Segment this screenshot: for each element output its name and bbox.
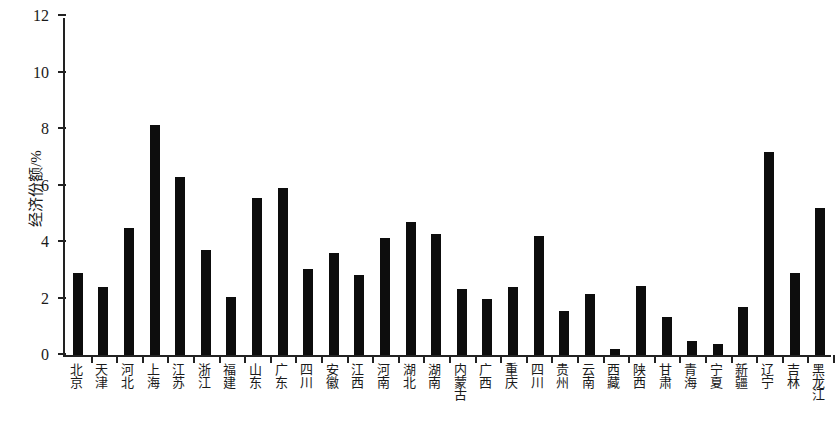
- bar: [815, 208, 825, 355]
- x-axis-tick: [679, 355, 681, 363]
- bar: [329, 253, 339, 355]
- bar: [354, 275, 364, 356]
- y-axis-tick: 6: [58, 184, 66, 186]
- x-axis-label: 辽宁: [761, 363, 774, 388]
- x-axis-tick: [603, 355, 605, 363]
- x-axis-label: 青海: [684, 363, 697, 388]
- bar: [252, 198, 262, 355]
- bar: [534, 236, 544, 355]
- x-axis-label: 云南: [581, 363, 594, 388]
- bar: [764, 152, 774, 355]
- x-axis-label: 四川: [300, 363, 313, 388]
- x-axis-label: 甘肃: [658, 363, 671, 388]
- bar: [124, 228, 134, 355]
- y-axis-tick-label: 2: [41, 289, 49, 309]
- y-axis-tick-label: 4: [41, 232, 49, 252]
- x-axis-tick: [654, 355, 656, 363]
- x-axis-tick: [526, 355, 528, 363]
- bar: [482, 299, 492, 356]
- x-axis-tick: [347, 355, 349, 363]
- x-axis-tick: [449, 355, 451, 363]
- y-axis-tick-label: 12: [33, 6, 49, 26]
- bar: [610, 349, 620, 355]
- x-axis-tick: [807, 355, 809, 363]
- x-axis-label: 广西: [479, 363, 492, 388]
- y-axis-tick-label: 6: [41, 176, 49, 196]
- x-axis-label: 上海: [146, 363, 159, 388]
- x-axis-tick: [321, 355, 323, 363]
- x-axis-label: 福建: [223, 363, 236, 388]
- y-axis-tick-label: 8: [41, 119, 49, 139]
- x-axis-label: 江西: [351, 363, 364, 388]
- bar: [406, 222, 416, 355]
- bar: [662, 317, 672, 355]
- bar: [175, 177, 185, 355]
- x-axis-tick: [500, 355, 502, 363]
- x-axis-tick: [270, 355, 272, 363]
- bar: [226, 297, 236, 355]
- bar: [73, 273, 83, 355]
- x-axis-tick: [372, 355, 374, 363]
- x-axis-label: 西藏: [607, 363, 620, 388]
- x-axis-label: 河北: [121, 363, 134, 388]
- x-axis-label: 黑龙江: [812, 363, 825, 401]
- y-axis-tick: 0: [58, 353, 66, 355]
- x-axis-tick: [193, 355, 195, 363]
- x-axis-label: 贵州: [556, 363, 569, 388]
- bar: [303, 269, 313, 355]
- x-axis-tick: [116, 355, 118, 363]
- x-axis-label: 山东: [249, 363, 262, 388]
- bar: [150, 125, 160, 355]
- x-axis-label: 江苏: [172, 363, 185, 388]
- y-axis-tick-label: 0: [41, 345, 49, 365]
- bar: [713, 344, 723, 355]
- bar: [431, 234, 441, 355]
- x-axis-tick: [705, 355, 707, 363]
- bar: [687, 341, 697, 355]
- x-axis-tick: [167, 355, 169, 363]
- x-axis-tick: [244, 355, 246, 363]
- x-axis-tick: [142, 355, 144, 363]
- y-axis-tick: 12: [58, 14, 66, 16]
- x-axis-tick: [551, 355, 553, 363]
- bar: [508, 287, 518, 355]
- bar: [790, 273, 800, 355]
- x-axis-label: 新疆: [735, 363, 748, 388]
- y-axis-tick: 10: [58, 71, 66, 73]
- x-axis-tick: [475, 355, 477, 363]
- y-axis-tick: 8: [58, 127, 66, 129]
- x-axis-tick: [398, 355, 400, 363]
- bar: [457, 289, 467, 355]
- x-axis-tick: [577, 355, 579, 363]
- plot-area: 024681012: [63, 18, 831, 357]
- x-axis-tick: [731, 355, 733, 363]
- y-axis-tick: 2: [58, 297, 66, 299]
- x-axis-tick: [782, 355, 784, 363]
- x-axis-label: 吉林: [786, 363, 799, 388]
- y-axis-tick: 4: [58, 240, 66, 242]
- x-axis-label: 浙江: [197, 363, 210, 388]
- x-axis-label: 陕西: [633, 363, 646, 388]
- bar: [585, 294, 595, 355]
- bar: [559, 311, 569, 355]
- x-axis-label: 北京: [69, 363, 82, 388]
- x-axis-label: 四川: [530, 363, 543, 388]
- bar: [278, 188, 288, 355]
- bar: [738, 307, 748, 355]
- x-axis-label: 湖北: [402, 363, 415, 388]
- x-axis-label: 湖南: [428, 363, 441, 388]
- x-axis-label: 安徽: [325, 363, 338, 388]
- x-axis-tick: [628, 355, 630, 363]
- y-axis-tick-label: 10: [33, 63, 49, 83]
- x-axis-tick: [756, 355, 758, 363]
- x-axis-label: 广东: [274, 363, 287, 388]
- x-axis-tick: [91, 355, 93, 363]
- bar: [201, 250, 211, 355]
- x-axis-label: 重庆: [505, 363, 518, 388]
- bar: [380, 238, 390, 355]
- x-axis-label: 天津: [95, 363, 108, 388]
- bar: [98, 287, 108, 355]
- x-axis-tick: [423, 355, 425, 363]
- x-axis-label: 河南: [377, 363, 390, 388]
